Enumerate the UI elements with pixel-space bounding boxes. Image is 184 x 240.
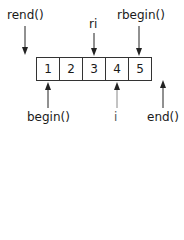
label-begin: begin() [27, 110, 70, 124]
label-end: end() [147, 110, 179, 124]
label-i: i [114, 110, 117, 124]
